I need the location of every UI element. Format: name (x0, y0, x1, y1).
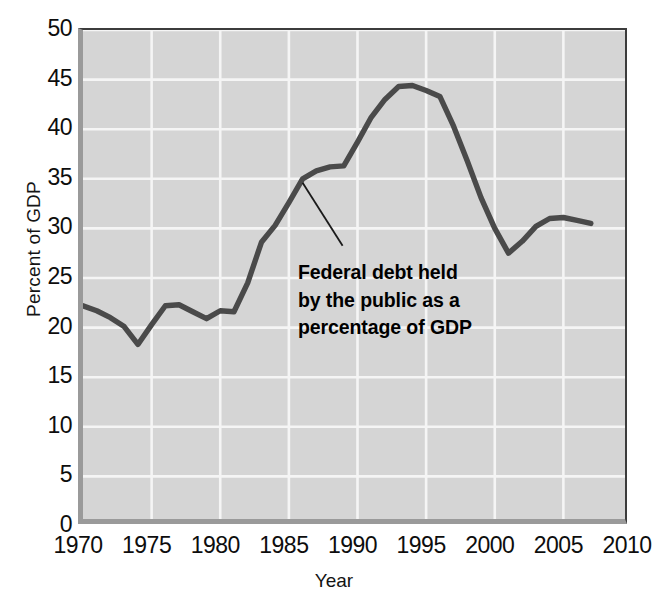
y-tick-label: 15 (10, 364, 72, 387)
x-axis-title: Year (0, 570, 668, 592)
chart-figure: Percent of GDP 05101520253035404550 Fede… (0, 0, 668, 599)
leader-line-stroke (303, 183, 343, 246)
annotation-line: percentage of GDP (298, 314, 538, 342)
y-tick-label: 25 (10, 265, 72, 288)
y-tick-label: 10 (10, 414, 72, 437)
annotation-leader-line (303, 183, 343, 246)
y-tick-label: 50 (10, 17, 72, 40)
y-tick-label: 40 (10, 116, 72, 139)
y-tick-label: 5 (10, 463, 72, 486)
y-tick-label: 20 (10, 315, 72, 338)
annotation-line: Federal debt held (298, 259, 538, 287)
annotation-line: by the public as a (298, 287, 538, 315)
y-axis-tick-labels: 05101520253035404550 (0, 0, 72, 599)
y-tick-label: 35 (10, 166, 72, 189)
x-axis-tick-labels: 197019751980198519901995200020052010 (0, 534, 668, 568)
horizontal-gridlines (83, 30, 627, 476)
x-tick-label: 2010 (582, 534, 668, 557)
chart-annotation-label: Federal debt heldby the public as aperce… (298, 259, 538, 342)
y-tick-label: 45 (10, 67, 72, 90)
y-tick-label: 30 (10, 215, 72, 238)
